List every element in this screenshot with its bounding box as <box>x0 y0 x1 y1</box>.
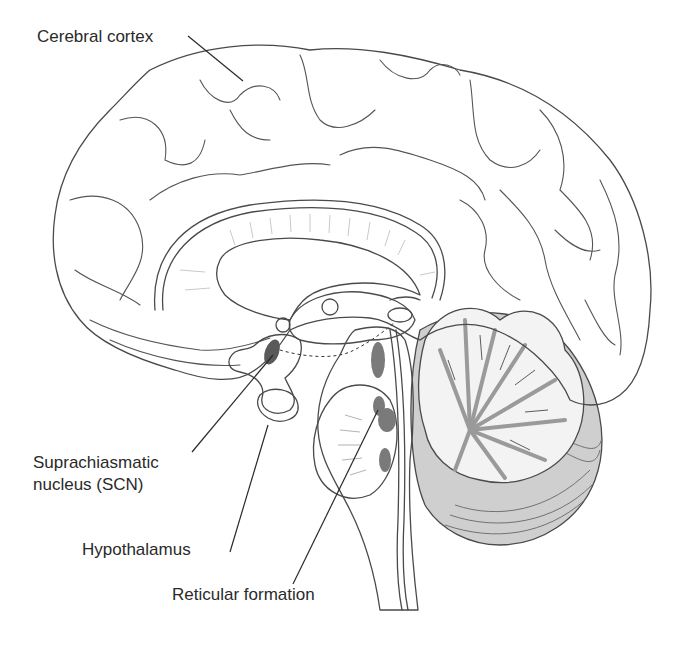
label-hypothalamus: Hypothalamus <box>82 540 191 560</box>
hypothalamus-region <box>229 318 395 421</box>
label-scn-line1: Suprachiasmatic <box>33 453 159 473</box>
label-reticular-formation: Reticular formation <box>172 585 315 605</box>
brainstem <box>313 327 418 610</box>
corpus-callosum <box>155 200 445 320</box>
label-scn-line2: nucleus (SCN) <box>33 475 144 495</box>
cerebellum <box>411 308 602 545</box>
label-cerebral-cortex: Cerebral cortex <box>37 27 153 47</box>
leader-lines <box>188 36 378 584</box>
reticular-nucleus <box>371 342 385 378</box>
